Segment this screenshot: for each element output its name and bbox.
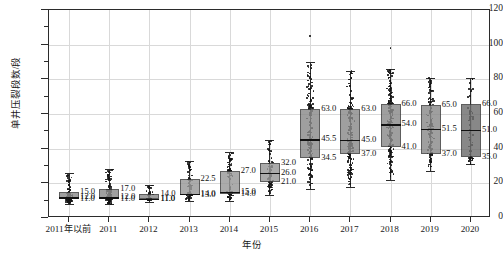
scatter-point: [313, 90, 315, 92]
scatter-point: [389, 93, 391, 95]
whisker-cap-upper: [65, 173, 74, 174]
x-tick: [269, 217, 270, 222]
scatter-point: [392, 72, 394, 74]
scatter-point: [310, 87, 312, 89]
scatter-point: [269, 192, 271, 194]
scatter-point: [353, 97, 355, 99]
scatter-point: [311, 78, 313, 80]
whisker-cap-lower: [225, 201, 234, 202]
scatter-point: [268, 141, 270, 143]
scatter-point: [307, 80, 309, 82]
scatter-point: [308, 83, 310, 85]
scatter-point: [107, 174, 109, 176]
scatter-point: [70, 201, 72, 203]
whisker-cap-upper: [466, 78, 475, 79]
box-group: 15.012.011.0: [49, 10, 89, 216]
scatter-point: [469, 95, 471, 97]
scatter-point: [351, 98, 353, 100]
x-tick: [229, 217, 230, 222]
scatter-point: [472, 88, 474, 90]
scatter-point: [393, 173, 395, 175]
scatter-point: [349, 178, 351, 180]
scatter-point: [109, 183, 111, 185]
scatter-point: [352, 169, 354, 171]
scatter-point: [68, 181, 70, 183]
scatter-point: [430, 158, 432, 160]
scatter-point: [472, 158, 474, 160]
box-label-median: 51.0: [482, 125, 497, 134]
scatter-point: [270, 140, 272, 142]
scatter-point: [428, 92, 430, 94]
median-line: [59, 197, 79, 198]
box-group: 63.045.534.5: [290, 10, 330, 216]
box-group: 66.051.035.0: [451, 10, 491, 216]
scatter-point: [307, 181, 309, 183]
scatter-point: [471, 89, 473, 91]
box-label-q3: 66.0: [482, 99, 497, 108]
scatter-point: [311, 64, 313, 66]
x-tick: [189, 217, 190, 222]
whisker-cap-lower: [185, 201, 194, 202]
scatter-point: [309, 178, 311, 180]
scatter-point: [471, 160, 473, 162]
scatter-point: [350, 168, 352, 170]
whisker-cap-lower: [386, 180, 395, 181]
scatter-point: [351, 173, 353, 175]
scatter-point: [191, 175, 193, 177]
median-line: [421, 129, 441, 130]
scatter-point: [312, 158, 314, 160]
x-tick: [108, 217, 109, 222]
scatter-point: [352, 162, 354, 164]
box: [220, 171, 240, 194]
scatter-point: [268, 160, 270, 162]
scatter-point: [468, 160, 470, 162]
scatter-point: [110, 176, 112, 178]
scatter-point: [189, 167, 191, 169]
x-tick: [430, 217, 431, 222]
scatter-point: [307, 159, 309, 161]
box-group: 14.011.011.0: [129, 10, 169, 216]
scatter-point: [188, 198, 190, 200]
scatter-point: [271, 157, 273, 159]
median-line: [260, 173, 280, 174]
scatter-point: [187, 171, 189, 173]
scatter-point: [308, 88, 310, 90]
scatter-point: [271, 150, 273, 152]
box: [300, 109, 320, 158]
whisker-cap-lower: [65, 204, 74, 205]
median-line: [300, 139, 320, 140]
scatter-outlier-point: [309, 35, 311, 37]
scatter-point: [433, 100, 435, 102]
scatter-point: [310, 99, 312, 101]
box: [340, 109, 360, 154]
median-line: [220, 192, 240, 193]
scatter-point: [430, 99, 432, 101]
boxplot-chart: 单井压裂段数/段 年份 020406080100120 2011年以前20112…: [0, 0, 503, 260]
scatter-point: [393, 148, 395, 150]
median-line: [99, 197, 119, 198]
y-tick-major: [41, 113, 48, 114]
scatter-point: [469, 158, 471, 160]
scatter-point: [309, 163, 311, 165]
median-line: [381, 124, 401, 125]
scatter-point: [189, 169, 191, 171]
scatter-point: [469, 82, 471, 84]
scatter-point: [187, 163, 189, 165]
scatter-point: [349, 157, 351, 159]
scatter-point: [152, 191, 154, 193]
scatter-point: [390, 151, 392, 153]
scatter-point: [310, 165, 312, 167]
scatter-point: [346, 86, 348, 88]
scatter-point: [311, 175, 313, 177]
box-group: 32.026.021.0: [250, 10, 290, 216]
scatter-point: [353, 106, 355, 108]
whisker-cap-lower: [346, 187, 355, 188]
scatter-point: [349, 183, 351, 185]
scatter-point: [309, 184, 311, 186]
scatter-point: [350, 106, 352, 108]
scatter-point: [309, 76, 311, 78]
scatter-point: [390, 89, 392, 91]
x-tick: [470, 217, 471, 222]
x-axis-title: 年份: [0, 240, 503, 250]
x-tick: [309, 217, 310, 222]
